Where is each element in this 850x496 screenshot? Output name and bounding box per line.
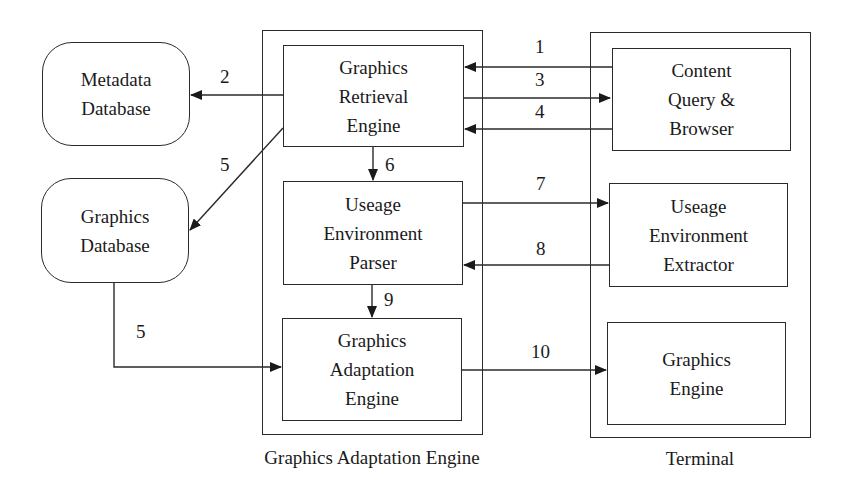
edge-label-5-diagonal: 5 xyxy=(220,155,230,175)
edge-label-5-elbow: 5 xyxy=(136,322,146,342)
adaptation-engine-caption: Graphics Adaptation Engine xyxy=(222,447,522,469)
graphics-retrieval-engine-node: Graphics Retrieval Engine xyxy=(283,45,464,147)
graphics-engine-node: Graphics Engine xyxy=(607,322,786,425)
graphics-adaptation-engine-node: Graphics Adaptation Engine xyxy=(282,318,462,421)
useage-environment-extractor-node: Useage Environment Extractor xyxy=(609,183,788,287)
terminal-caption: Terminal xyxy=(620,448,780,470)
edge-label-10: 10 xyxy=(531,342,550,362)
useage-environment-parser-node: Useage Environment Parser xyxy=(283,181,463,285)
content-query-browser-node: Content Query & Browser xyxy=(612,48,791,151)
metadata-database-node: Metadata Database xyxy=(42,42,190,146)
edge-label-1: 1 xyxy=(535,37,545,57)
edge-label-6: 6 xyxy=(385,155,395,175)
graphics-database-node: Graphics Database xyxy=(41,178,189,283)
edge-label-7: 7 xyxy=(536,174,546,194)
edge-label-8: 8 xyxy=(536,239,546,259)
edge-label-9: 9 xyxy=(384,290,394,310)
edge-label-4: 4 xyxy=(535,102,545,122)
edge-label-3: 3 xyxy=(535,70,545,90)
edge-label-2: 2 xyxy=(220,67,230,87)
